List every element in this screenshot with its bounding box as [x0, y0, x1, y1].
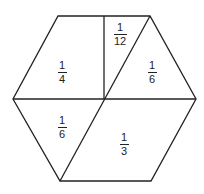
- fraction-top-center: 1 12: [108, 22, 132, 47]
- fraction-lower-left: 1 6: [50, 115, 74, 140]
- fraction-upper-left: 1 4: [50, 60, 74, 85]
- fraction-lower-right: 1 3: [112, 132, 136, 157]
- fraction-upper-right: 1 6: [140, 60, 164, 85]
- hexagon-diagram: [0, 0, 204, 194]
